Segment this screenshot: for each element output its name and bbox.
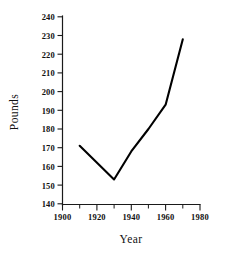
chart-figure: 240 230 220 210 200 190 180 170 160 150 …	[0, 0, 242, 254]
y-tick-label: 190	[42, 106, 55, 116]
y-tick-label: 150	[42, 181, 55, 191]
x-tick-label: 1980	[191, 212, 209, 222]
y-tick-label: 140	[42, 199, 55, 209]
x-tick-label: 1940	[122, 212, 140, 222]
y-tick-label: 200	[42, 87, 55, 97]
x-tick-label: 1920	[88, 212, 106, 222]
y-tick-label: 230	[42, 31, 55, 41]
line-chart-svg: 240 230 220 210 200 190 180 170 160 150 …	[0, 0, 242, 254]
y-tick-label: 160	[42, 162, 55, 172]
x-tick-label: 1900	[54, 212, 72, 222]
y-tick-label: 210	[42, 68, 55, 78]
y-tick-label: 170	[42, 143, 55, 153]
y-axis-title: Pounds	[8, 94, 20, 130]
x-tick-label: 1960	[157, 212, 175, 222]
y-tick-label: 180	[42, 124, 55, 134]
y-tick-label: 220	[42, 50, 55, 60]
y-tick-label: 240	[42, 12, 55, 22]
x-axis-title: Year	[120, 233, 143, 245]
